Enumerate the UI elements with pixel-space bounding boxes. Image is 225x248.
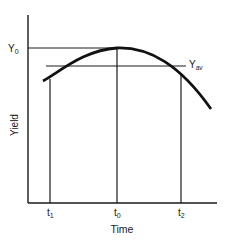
yav-label: Yav: [189, 59, 203, 71]
t2-tick-label: t2: [178, 207, 185, 219]
y0-label: Y0: [8, 43, 19, 55]
x-axis-title: Time: [111, 223, 134, 235]
yield-time-diagram: Y0 Yav Yield t1 t0 t2 Time: [0, 0, 225, 248]
y-axis-title: Yield: [9, 114, 20, 136]
t1-tick-label: t1: [47, 207, 54, 219]
t0-tick-label: t0: [114, 207, 121, 219]
yield-curve: [43, 48, 211, 109]
